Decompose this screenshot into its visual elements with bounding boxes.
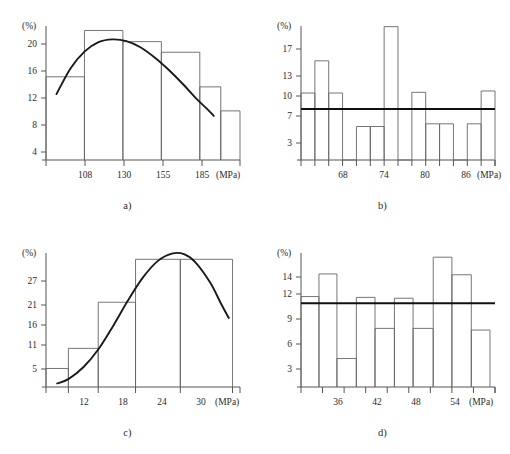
x-ticks-c [46, 387, 240, 393]
y-tick-d-1: 6 [287, 339, 292, 349]
x-ticks-b [301, 160, 495, 166]
y-unit-label-b: (%) [277, 21, 291, 32]
x-tick-a-2: 155 [156, 170, 171, 180]
normal-fit-curve-c [57, 253, 229, 384]
x-unit-label-c: (MPa) [215, 397, 239, 408]
x-tick-c-2: 24 [157, 397, 167, 407]
y-tick-a-0: 4 [32, 147, 37, 157]
x-tick-a-0: 108 [78, 170, 93, 180]
histogram-bar [467, 124, 481, 160]
chart-a: (%) 4 8 12 16 20 108 130 155 185 [0, 0, 255, 200]
normal-fit-curve-a [56, 39, 213, 116]
panel-caption-a: a) [0, 200, 255, 211]
x-tick-a-3: 185 [195, 170, 210, 180]
histogram-bar [452, 275, 471, 387]
chart-a-plot: (%) 4 8 12 16 20 108 130 155 185 [22, 21, 240, 181]
histogram-bar [319, 274, 337, 387]
y-unit-label-a: (%) [22, 21, 36, 32]
x-tick-b-0: 68 [338, 170, 348, 180]
histogram-bar [329, 93, 343, 160]
chart-d: (%) 3 6 9 12 14 36 42 48 54 (MPa) [255, 227, 510, 427]
histogram-bar [412, 92, 426, 160]
x-tick-d-0: 36 [333, 397, 343, 407]
y-tick-a-3: 16 [28, 66, 38, 76]
y-tick-c-4: 27 [28, 276, 38, 286]
y-tick-c-3: 21 [28, 300, 38, 310]
x-unit-label-a: (MPa) [216, 170, 240, 181]
x-tick-c-0: 12 [79, 397, 89, 407]
y-tick-b-2: 10 [283, 91, 293, 101]
histogram-bar [471, 330, 490, 387]
y-tick-b-0: 3 [287, 138, 292, 148]
y-tick-c-1: 11 [28, 340, 37, 350]
x-tick-d-2: 48 [411, 397, 421, 407]
y-tick-d-4: 14 [283, 272, 293, 282]
histogram-bar [315, 61, 329, 160]
panel-c: (%) 5 11 16 21 27 12 18 24 30 (MPa) c) [0, 227, 255, 454]
x-tick-c-3: 30 [196, 397, 206, 407]
histogram-bar [413, 328, 433, 387]
histogram-bar [221, 111, 240, 160]
y-tick-c-0: 5 [32, 364, 37, 374]
y-tick-d-2: 9 [287, 314, 292, 324]
x-unit-label-b: (MPa) [477, 170, 501, 181]
y-tick-d-0: 3 [287, 364, 292, 374]
histogram-bar [481, 91, 495, 160]
y-ticks-a [41, 44, 46, 152]
histogram-bar [337, 359, 356, 387]
x-tick-d-1: 42 [372, 397, 382, 407]
figure-grid: (%) 4 8 12 16 20 108 130 155 185 [0, 0, 510, 454]
histogram-bar [301, 93, 315, 160]
chart-b-plot: (%) 3 7 10 13 17 68 74 80 86 (MPa) [277, 21, 501, 181]
histogram-bar [384, 27, 398, 160]
histogram-bar [84, 30, 122, 160]
x-unit-label-d: (MPa) [469, 397, 493, 408]
histogram-bar [98, 302, 135, 387]
histogram-bars-b [301, 27, 495, 160]
y-tick-b-4: 17 [283, 44, 293, 54]
panel-caption-c: c) [0, 427, 255, 438]
y-tick-a-2: 12 [28, 93, 38, 103]
histogram-bar [375, 328, 394, 387]
chart-d-plot: (%) 3 6 9 12 14 36 42 48 54 (MPa) [277, 248, 495, 408]
x-tick-b-2: 80 [420, 170, 430, 180]
x-ticks-a [46, 160, 240, 166]
histogram-bar [356, 127, 370, 161]
chart-c-plot: (%) 5 11 16 21 27 12 18 24 30 (MPa) [22, 248, 240, 408]
histogram-bar [440, 124, 454, 160]
y-ticks-d [296, 277, 301, 369]
histogram-bar [46, 77, 84, 160]
x-tick-b-1: 74 [379, 170, 389, 180]
y-tick-d-3: 12 [283, 289, 293, 299]
y-tick-a-1: 8 [32, 120, 37, 130]
panel-a: (%) 4 8 12 16 20 108 130 155 185 [0, 0, 255, 227]
histogram-bar [433, 257, 452, 387]
histogram-bar [301, 297, 319, 387]
y-ticks-b [296, 49, 301, 143]
panel-caption-b: b) [255, 200, 510, 211]
x-ticks-d [301, 387, 495, 393]
y-unit-label-c: (%) [22, 248, 36, 259]
chart-b: (%) 3 7 10 13 17 68 74 80 86 (MPa) [255, 0, 510, 200]
histogram-bar [426, 124, 440, 160]
x-tick-b-3: 86 [461, 170, 471, 180]
y-tick-b-3: 13 [283, 71, 293, 81]
y-unit-label-d: (%) [277, 248, 291, 259]
histogram-bar [356, 297, 375, 387]
histogram-bars-c [46, 259, 233, 387]
panel-b: (%) 3 7 10 13 17 68 74 80 86 (MPa) b) [255, 0, 510, 227]
y-tick-c-2: 16 [28, 320, 38, 330]
histogram-bar [200, 87, 221, 160]
y-tick-a-4: 20 [28, 39, 38, 49]
x-tick-a-1: 130 [117, 170, 132, 180]
panel-d: (%) 3 6 9 12 14 36 42 48 54 (MPa) d) [255, 227, 510, 454]
histogram-bar [394, 298, 413, 387]
x-tick-c-1: 18 [118, 397, 128, 407]
histogram-bar [370, 127, 384, 161]
x-tick-d-3: 54 [450, 397, 460, 407]
y-ticks-c [41, 281, 46, 369]
y-tick-b-1: 7 [287, 111, 292, 121]
panel-caption-d: d) [255, 427, 510, 438]
histogram-bars-d [301, 257, 490, 387]
chart-c: (%) 5 11 16 21 27 12 18 24 30 (MPa) [0, 227, 255, 427]
